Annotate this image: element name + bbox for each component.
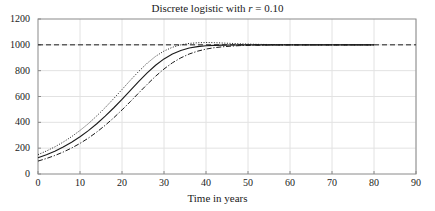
y-tick-label: 200	[0, 142, 30, 154]
x-tick-label: 80	[359, 177, 389, 189]
y-tick-label: 600	[0, 91, 30, 103]
chart-figure: Discrete logistic with r = 0.10 02004006…	[0, 0, 435, 211]
y-tick-label: 400	[0, 116, 30, 128]
data-series	[38, 43, 416, 162]
x-tick-label: 20	[107, 177, 137, 189]
x-tick-label: 70	[317, 177, 347, 189]
chart-title: Discrete logistic with r = 0.10	[0, 1, 435, 15]
x-tick-label: 50	[233, 177, 263, 189]
x-axis-label: Time in years	[0, 191, 435, 205]
y-tick-label: 800	[0, 65, 30, 77]
x-tick-label: 60	[275, 177, 305, 189]
x-tick-label: 40	[191, 177, 221, 189]
x-tick-label: 0	[23, 177, 53, 189]
x-tick-label: 90	[401, 177, 431, 189]
chart-title-suffix: = 0.10	[253, 2, 284, 14]
x-tick-label: 30	[149, 177, 179, 189]
y-tick-label: 1200	[0, 13, 30, 25]
gridlines	[38, 19, 416, 174]
chart-title-prefix: Discrete logistic with	[151, 2, 248, 14]
x-tick-label: 10	[65, 177, 95, 189]
y-tick-label: 1000	[0, 39, 30, 51]
